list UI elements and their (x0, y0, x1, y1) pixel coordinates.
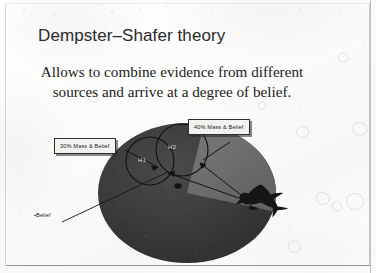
hypothesis-label-h1: H1 (138, 157, 146, 163)
hypothesis-label-h2: H2 (168, 144, 176, 150)
focal-element-node (174, 183, 181, 189)
callout-40-percent-mass: 40% Mass & Belief (188, 119, 250, 135)
belief-mass-diagram (0, 0, 376, 273)
belief-marker-label: •Belief (34, 212, 51, 218)
callout-30-percent-mass: 30% Mass & Belief (54, 138, 116, 154)
slide-canvas: Dempster–Shafer theory Allows to combine… (0, 0, 376, 273)
